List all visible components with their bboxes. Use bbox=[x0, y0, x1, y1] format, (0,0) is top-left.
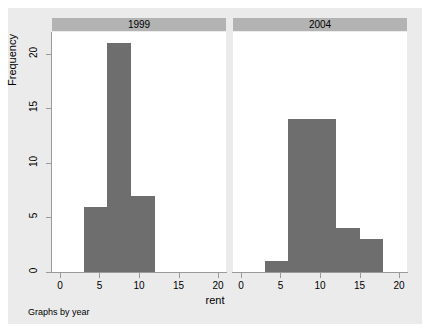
x-tick-label: 5 bbox=[268, 280, 292, 291]
x-tick-label: 0 bbox=[229, 280, 253, 291]
x-tick-label: 0 bbox=[48, 280, 72, 291]
y-axis-title: Frequency bbox=[5, 0, 19, 120]
figure-note: Graphs by year bbox=[28, 307, 90, 317]
histogram-bar bbox=[131, 196, 155, 272]
x-tick bbox=[218, 273, 219, 278]
x-tick-label: 15 bbox=[348, 280, 372, 291]
y-tick bbox=[46, 163, 51, 164]
y-tick-label: 0 bbox=[28, 258, 39, 284]
x-tick bbox=[360, 273, 361, 278]
y-tick-label: 5 bbox=[28, 203, 39, 229]
y-tick bbox=[46, 108, 51, 109]
x-tick bbox=[179, 273, 180, 278]
histogram-figure: Frequency 05101520 1999 2004 05101520051… bbox=[0, 0, 430, 332]
x-tick bbox=[280, 273, 281, 278]
panel-title-1999: 1999 bbox=[52, 18, 226, 31]
x-axis-title: rent bbox=[0, 294, 430, 306]
panel-1999 bbox=[52, 32, 226, 272]
x-tick bbox=[99, 273, 100, 278]
y-tick-label: 20 bbox=[28, 39, 39, 65]
histogram-bar bbox=[360, 239, 384, 272]
panel-2004 bbox=[233, 32, 407, 272]
x-tick bbox=[60, 273, 61, 278]
histogram-bar bbox=[288, 119, 312, 272]
histogram-bar bbox=[265, 261, 289, 272]
panel-title-2004: 2004 bbox=[233, 18, 407, 31]
x-tick-label: 5 bbox=[87, 280, 111, 291]
histogram-bar bbox=[84, 207, 108, 272]
x-tick-label: 10 bbox=[308, 280, 332, 291]
x-tick bbox=[399, 273, 400, 278]
x-tick bbox=[139, 273, 140, 278]
histogram-bar bbox=[107, 43, 131, 272]
x-tick-label: 10 bbox=[127, 280, 151, 291]
y-tick bbox=[46, 217, 51, 218]
x-tick-label: 20 bbox=[206, 280, 230, 291]
y-tick-label: 10 bbox=[28, 148, 39, 174]
histogram-bar bbox=[336, 228, 360, 272]
x-tick-label: 20 bbox=[387, 280, 411, 291]
x-tick bbox=[320, 273, 321, 278]
plot-area-2004 bbox=[233, 32, 407, 272]
y-tick-label: 15 bbox=[28, 94, 39, 120]
histogram-bar bbox=[312, 119, 336, 272]
x-tick bbox=[241, 273, 242, 278]
y-tick bbox=[46, 54, 51, 55]
x-tick-label: 15 bbox=[167, 280, 191, 291]
plot-area-1999 bbox=[52, 32, 226, 272]
